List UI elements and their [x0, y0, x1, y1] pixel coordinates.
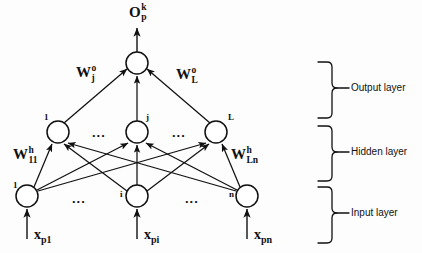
- output-variable-label: Okp: [129, 4, 146, 23]
- weight-hidden-right-indices: hLn: [247, 146, 259, 165]
- weight-hidden-left-indices: h11: [29, 146, 38, 165]
- weight-label-output-left: Woj: [76, 64, 96, 83]
- hidden-node-L-index: L: [228, 113, 234, 122]
- input-node-i-index: i: [120, 190, 123, 199]
- weight-hidden-left-base: W: [13, 146, 28, 162]
- layer-label-output: Output layer: [351, 83, 405, 93]
- input-variable-label-n: xpn: [254, 228, 272, 242]
- input-ellipsis-right: ...: [185, 192, 199, 205]
- edge-in-h1: [68, 143, 236, 191]
- input-variable-i-subscript: pi: [151, 234, 159, 245]
- hidden-node-1: [47, 121, 69, 143]
- weight-output-left-subscript: j: [92, 74, 97, 84]
- input-node-1: [16, 185, 38, 207]
- input-variable-i-base: x: [144, 227, 151, 242]
- edge-in-hj: [146, 143, 237, 190]
- input-arrows: [27, 209, 247, 239]
- hidden-node-1-index: 1: [44, 113, 49, 122]
- weight-label-output-right: WoL: [176, 66, 198, 85]
- layer-label-input: Input layer: [351, 208, 398, 218]
- input-variable-label-1: xp1: [34, 228, 52, 242]
- weight-output-left-indices: oj: [92, 64, 97, 83]
- hidden-ellipsis-left: ...: [92, 126, 106, 139]
- output-variable-base: O: [129, 4, 141, 20]
- weight-output-right-subscript: L: [192, 76, 198, 86]
- input-node-i: [126, 185, 148, 207]
- input-variable-n-subscript: pn: [261, 234, 272, 245]
- edge-i1-hj: [37, 143, 128, 190]
- layer-label-hidden: Hidden layer: [351, 147, 407, 157]
- output-node: [126, 52, 148, 74]
- network-diagram: Okp Woj WoL Wh11 WhLn 1 j L 1 i n ... ..…: [0, 0, 422, 253]
- hidden-node-j: [126, 121, 148, 143]
- weight-label-hidden-right: WhLn: [231, 146, 258, 165]
- weight-hidden-right-subscript: Ln: [247, 156, 259, 166]
- input-variable-1-base: x: [34, 227, 41, 242]
- input-ellipsis-left: ...: [72, 192, 86, 205]
- input-to-hidden-edges: [34, 143, 240, 191]
- weight-output-right-indices: oL: [192, 66, 198, 85]
- brace-hidden-layer: [318, 126, 337, 181]
- hidden-ellipsis-right: ...: [172, 126, 186, 139]
- weight-label-hidden-left: Wh11: [13, 146, 37, 165]
- layer-braces: [318, 62, 349, 243]
- weight-hidden-left-subscript: 11: [29, 156, 38, 166]
- hidden-node-j-index: j: [146, 113, 149, 122]
- input-node-1-index: 1: [13, 181, 18, 190]
- input-variable-label-i: xpi: [144, 228, 159, 242]
- output-variable-subscript: p: [141, 13, 146, 23]
- input-node-n: [236, 185, 258, 207]
- brace-output-layer: [318, 62, 337, 118]
- hidden-node-L: [205, 121, 227, 143]
- edge-i1-hL: [38, 143, 206, 191]
- weight-hidden-right-base: W: [231, 146, 246, 162]
- weight-output-left-base: W: [76, 64, 91, 80]
- weight-output-right-base: W: [176, 66, 191, 82]
- brace-input-layer: [318, 187, 337, 243]
- output-variable-indices: kp: [141, 3, 146, 22]
- input-node-n-index: n: [229, 190, 234, 199]
- input-variable-n-base: x: [254, 227, 261, 242]
- input-variable-1-subscript: p1: [41, 234, 52, 245]
